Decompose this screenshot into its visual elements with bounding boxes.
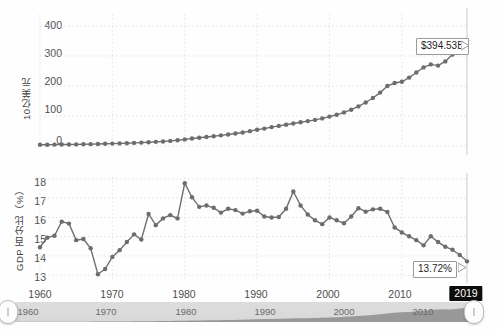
slider-handle-left-grip-icon [8,308,9,316]
x-axis-tick-active-2019: 2019 [449,286,482,301]
x-axis-tick-2010: 2010 [388,288,411,300]
slider-handle-left[interactable] [0,300,18,324]
bottom-chart-tooltip-pointer-icon [458,262,472,276]
chart-page: 10亿美元 400 300 200 100 0 $394.53B GDP 百分比… [0,0,499,331]
slider-handle-right[interactable] [464,300,484,324]
x-axis-tick-1980: 1980 [172,288,195,300]
bottom-chart-panel: GDP 百分比（%） 18 17 16 15 14 13 13.72% 1960… [0,165,499,300]
slider-tick-2010: 2010 [412,306,433,317]
x-axis-tick-2000: 2000 [316,288,339,300]
slider-tick-1970: 1970 [95,306,116,317]
slider-selected-range[interactable] [8,302,482,322]
x-axis-tick-1960: 1960 [28,288,51,300]
x-axis-tick-1990: 1990 [244,288,267,300]
top-chart-panel: 10亿美元 400 300 200 100 0 $394.53B [0,0,499,165]
slider-tick-1980: 1980 [175,306,196,317]
top-chart-plot[interactable] [0,0,499,165]
time-range-slider[interactable]: 1960 1970 1980 1990 2000 2010 [0,300,499,324]
slider-tick-2000: 2000 [333,306,354,317]
bottom-chart-markers [38,181,469,276]
top-chart-tooltip-pointer-icon [461,40,475,54]
bottom-chart-gridlines [40,177,467,280]
bottom-chart-tooltip: 13.72% [413,261,457,278]
slider-tick-1960: 1960 [17,306,38,317]
slider-handle-right-grip-icon [474,308,475,316]
x-axis-tick-1970: 1970 [100,288,123,300]
slider-tick-1990: 1990 [254,306,275,317]
bottom-chart-line-series [40,183,467,274]
